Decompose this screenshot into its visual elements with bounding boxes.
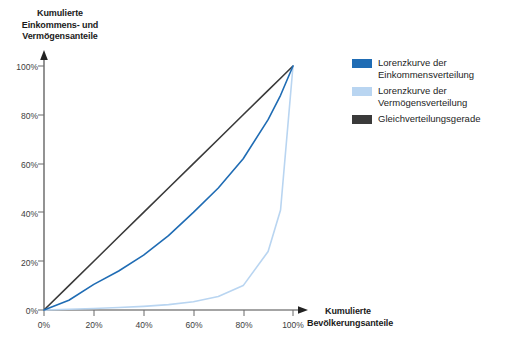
chart-legend: Lorenzkurve der Einkommensverteilung Lor… [352,57,507,130]
legend-label-wealth: Lorenzkurve der Vermögensverteilung [378,85,467,108]
legend-item-wealth: Lorenzkurve der Vermögensverteilung [352,85,507,108]
lorenz-curve-chart: Kumulierte Einkommens- und Vermögensante… [0,0,509,350]
x-axis-arrow-icon [298,306,308,314]
legend-label-wealth-line-1: Lorenzkurve der [378,85,447,96]
y-axis-ticks [38,66,44,310]
legend-label-wealth-line-2: Vermögensverteilung [378,97,467,109]
legend-item-income: Lorenzkurve der Einkommensverteilung [352,57,507,80]
legend-swatch-wealth [352,87,372,96]
equality-line-series [44,66,293,310]
y-axis-arrow-icon [40,50,48,60]
legend-label-equality-line-1: Gleichverteilungsgerade [378,113,480,124]
legend-item-equality: Gleichverteilungsgerade [352,113,507,125]
legend-label-equality: Gleichverteilungsgerade [378,113,480,125]
plot-area [0,0,509,350]
legend-label-income-line-1: Lorenzkurve der [378,57,447,68]
legend-swatch-income [352,59,372,68]
x-axis-ticks [44,310,293,316]
legend-label-income-line-2: Einkommensverteilung [378,69,474,81]
legend-swatch-equality [352,115,372,124]
legend-label-income: Lorenzkurve der Einkommensverteilung [378,57,474,80]
